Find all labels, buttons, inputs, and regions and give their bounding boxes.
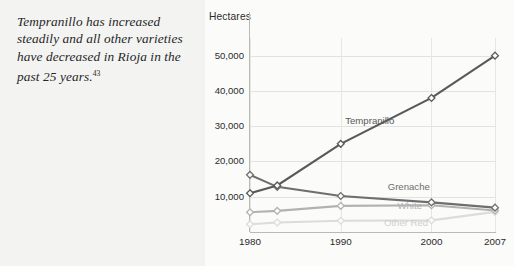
series-data-point bbox=[337, 217, 344, 224]
caption-footnote-marker: 43 bbox=[93, 69, 101, 78]
screenshot-root: Tempranillo has increased steadily and a… bbox=[0, 0, 514, 266]
x-axis-tick-label: 1990 bbox=[330, 236, 352, 247]
series-label-other-red: Other Red bbox=[384, 217, 428, 228]
gridline-vertical bbox=[495, 38, 496, 232]
series-line bbox=[250, 212, 495, 224]
y-axis-tick-label: 40,000 bbox=[205, 85, 244, 96]
series-data-point bbox=[274, 207, 281, 214]
y-axis-tick-label: 20,000 bbox=[205, 155, 244, 166]
caption-panel: Tempranillo has increased steadily and a… bbox=[0, 0, 205, 266]
y-axis-tick-label: 10,000 bbox=[205, 191, 244, 202]
series-label-tempranillo: Tempranillo bbox=[345, 115, 394, 126]
series-data-point bbox=[247, 190, 254, 197]
y-axis-tick-label: 50,000 bbox=[205, 50, 244, 61]
caption-text: Tempranillo has increased steadily and a… bbox=[17, 13, 192, 86]
x-axis-tick-label: 2007 bbox=[484, 236, 506, 247]
series-data-point bbox=[247, 209, 254, 216]
y-axis-title: Hectares bbox=[209, 11, 251, 22]
x-axis-tick-label: 2000 bbox=[420, 236, 442, 247]
series-lines bbox=[250, 38, 495, 232]
x-axis-tick-label: 1980 bbox=[239, 236, 261, 247]
y-axis-tick-label: 30,000 bbox=[205, 120, 244, 131]
series-data-point bbox=[337, 193, 344, 200]
series-data-point bbox=[247, 171, 254, 178]
series-data-point bbox=[337, 202, 344, 209]
series-line bbox=[250, 205, 495, 212]
series-label-white: White bbox=[397, 200, 422, 211]
series-data-point bbox=[247, 221, 254, 228]
series-data-point bbox=[274, 219, 281, 226]
chart-panel: Hectares 10,00020,00030,00040,00050,000 … bbox=[205, 0, 514, 266]
series-data-point bbox=[428, 217, 435, 224]
plot-area: TempranilloGrenacheWhiteOther Red bbox=[250, 38, 495, 232]
series-label-grenache: Grenache bbox=[388, 181, 430, 192]
x-axis-line bbox=[250, 232, 496, 233]
